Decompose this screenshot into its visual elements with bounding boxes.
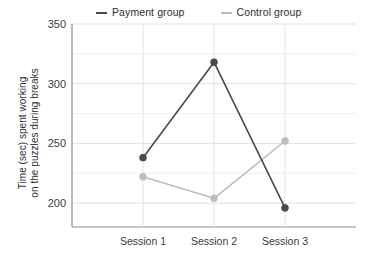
data-point [140,173,147,180]
y-tick-label: 350 [48,18,66,30]
x-tick-labels: Session 1Session 2Session 3 [120,235,308,247]
x-tick-label: Session 3 [262,235,308,247]
y-tick-labels: 200250300350 [48,18,66,209]
x-tick-label: Session 2 [191,235,237,247]
data-point [140,154,147,161]
data-point [282,138,289,145]
y-tick-label: 250 [48,137,66,149]
plot-area: 200250300350 Session 1Session 2Session 3 [0,0,387,257]
data-point [211,59,218,66]
data-point [211,195,218,202]
y-tick-label: 200 [48,197,66,209]
line-chart: Payment group Control group Time (sec) s… [0,0,387,257]
x-tick-label: Session 1 [120,235,166,247]
data-point [282,205,289,212]
y-tick-label: 300 [48,78,66,90]
